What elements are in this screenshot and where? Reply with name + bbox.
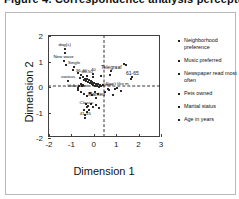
point-label: Single <box>68 61 80 65</box>
data-point <box>120 90 122 92</box>
data-point <box>92 76 94 78</box>
point-label: Telegraaf <box>101 65 122 70</box>
x-tick-label: -1 <box>68 140 75 149</box>
legend-marker-icon <box>178 73 180 75</box>
plot-area: -2-10123 210-1-2 dog(s)New waveSinglevar… <box>48 35 160 137</box>
x-tick <box>139 134 140 137</box>
legend: Neighborhood preferenceMusic preferredNe… <box>178 37 239 129</box>
y-tick <box>48 36 51 37</box>
x-tick-label: 3 <box>159 140 163 149</box>
y-tick-label: 1 <box>39 57 43 66</box>
data-point <box>131 76 133 78</box>
figure-title: Figure 4. Correspondence analysis percep… <box>4 0 239 5</box>
legend-item-label: Newspaper read most often <box>184 70 239 84</box>
y-axis-title: Dimension 2 <box>23 41 35 143</box>
x-tick <box>71 134 72 137</box>
data-point <box>72 69 74 71</box>
x-tick-label: 1 <box>114 140 118 149</box>
legend-item: Music preferred <box>178 57 239 64</box>
x-tick <box>116 134 117 137</box>
x-tick <box>94 134 95 137</box>
legend-item: Age in years <box>178 116 239 123</box>
point-label: 61-65 <box>126 71 139 76</box>
data-point <box>73 66 75 68</box>
legend-item: Neighborhood preference <box>178 37 239 51</box>
point-label: New wave <box>53 55 73 59</box>
y-tick <box>48 87 51 88</box>
y-tick <box>48 113 51 114</box>
legend-item-label: Pets owned <box>184 90 212 97</box>
data-point <box>95 97 97 99</box>
legend-item-label: Age in years <box>184 116 214 123</box>
data-point <box>83 93 85 95</box>
point-label: Other <box>102 83 113 87</box>
legend-marker-icon <box>178 93 180 95</box>
data-point <box>86 106 88 108</box>
data-point <box>107 88 109 90</box>
legend-item-label: Music preferred <box>184 57 221 64</box>
data-point <box>63 60 65 62</box>
data-point <box>64 48 66 50</box>
data-point <box>100 75 102 77</box>
legend-item: Newspaper read most often <box>178 70 239 84</box>
legend-marker-icon <box>178 40 180 42</box>
y-tick-label: -2 <box>36 134 43 143</box>
y-tick <box>48 62 51 63</box>
y-tick-label: 0 <box>39 83 43 92</box>
x-tick <box>49 134 50 137</box>
x-tick-label: 0 <box>92 140 96 149</box>
data-point <box>92 106 94 108</box>
legend-marker-icon <box>178 119 180 121</box>
data-point <box>98 86 100 88</box>
data-point <box>110 70 112 72</box>
point-label: dog(s) <box>58 43 70 47</box>
x-tick-label: -2 <box>45 140 52 149</box>
legend-marker-icon <box>178 60 180 62</box>
data-point <box>79 77 81 79</box>
data-point <box>116 87 118 89</box>
figure-container: Dimension 2 Dimension 1 -2-10123 210-1-2… <box>5 12 236 195</box>
legend-item-label: Neighborhood preference <box>184 37 239 51</box>
data-point <box>125 64 127 66</box>
y-tick <box>48 138 51 139</box>
point-label: Classic <box>80 101 94 105</box>
point-label: Volkskrant <box>68 84 88 88</box>
point-label: 41-45 <box>80 112 91 116</box>
figure-title-strip: Figure 4. Correspondence analysis percep… <box>0 0 239 11</box>
legend-item: Pets owned <box>178 90 239 97</box>
data-point <box>123 63 125 65</box>
x-tick-label: 2 <box>136 140 140 149</box>
y-tick-label: -1 <box>36 108 43 117</box>
data-point <box>130 78 132 80</box>
point-label: various <box>61 75 75 79</box>
data-point <box>109 74 111 76</box>
y-tick-label: 2 <box>39 32 43 41</box>
data-point <box>84 117 86 119</box>
point-label: 40 <box>91 68 96 72</box>
data-point <box>80 91 82 93</box>
x-tick <box>161 134 162 137</box>
data-point <box>98 107 100 109</box>
x-axis-title: Dimension 1 <box>48 165 160 177</box>
legend-marker-icon <box>178 106 180 108</box>
legend-item: Marital status <box>178 103 239 110</box>
data-point <box>77 89 79 91</box>
legend-item-label: Marital status <box>184 103 216 110</box>
data-point <box>112 94 114 96</box>
data-point <box>86 75 88 77</box>
data-point <box>95 104 97 106</box>
data-point <box>80 74 82 76</box>
point-label: Married <box>88 91 105 96</box>
